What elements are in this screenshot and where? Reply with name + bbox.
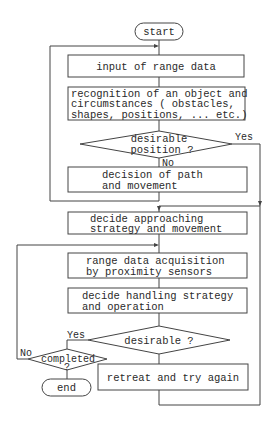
desirable-position-line-2: position ?	[130, 144, 193, 156]
start-label: start	[143, 26, 175, 38]
position-yes-label: Yes	[235, 132, 253, 143]
arrowhead	[154, 44, 159, 48]
end-label: end	[57, 382, 76, 394]
recognition-line-3: shapes, positions, ... etc.)	[71, 109, 247, 121]
acquisition-line-2: by proximity sensors	[86, 266, 212, 278]
decision-path-line-2: and movement	[102, 180, 178, 192]
handling-line-2: and operation	[82, 301, 164, 313]
desirable-label: desirable ?	[124, 335, 193, 347]
flowchart-canvas: start input of range data recognition of…	[0, 0, 277, 425]
desirable-yes-label: Yes	[67, 330, 85, 341]
retreat-label: retreat and try again	[107, 372, 239, 384]
input-label: input of range data	[96, 61, 216, 73]
completed-no-label: No	[20, 348, 32, 359]
approach-line-2: strategy and movement	[90, 223, 222, 235]
